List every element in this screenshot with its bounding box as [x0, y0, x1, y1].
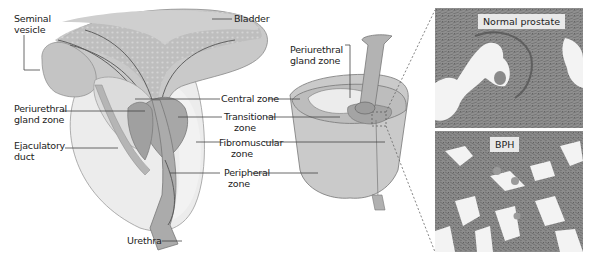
- label-seminal-vesicle: Seminal vesicle: [14, 13, 51, 35]
- label-fibromuscular-zone: Fibromuscular zone: [219, 137, 265, 159]
- label-transitional-zone: Transitional zone: [224, 111, 266, 133]
- label-periurethral-gland-zone-left: Periurethral gland zone: [14, 103, 67, 125]
- micrograph-tag-bph: BPH: [490, 137, 519, 152]
- label-ejaculatory-duct: Ejaculatory duct: [14, 140, 65, 162]
- label-peripheral-zone: Peripheral zone: [224, 167, 254, 189]
- label-periurethral-gland-zone-right: Periurethral gland zone: [290, 44, 343, 66]
- micrograph-normal-prostate: Normal prostate: [435, 8, 583, 128]
- micrograph-bph: BPH: [435, 131, 583, 252]
- label-bladder: Bladder: [234, 13, 269, 24]
- label-central-zone: Central zone: [221, 93, 267, 104]
- label-urethra: Urethra: [127, 235, 162, 246]
- micrograph-tag-normal: Normal prostate: [478, 14, 565, 29]
